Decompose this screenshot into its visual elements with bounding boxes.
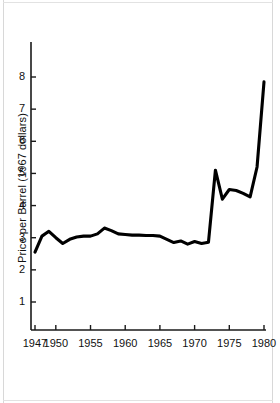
- figure-page: Price per Barrel (1967 dollars) 12345678…: [0, 0, 280, 403]
- y-axis-label: Price per Barrel (1967 dollars): [16, 88, 28, 288]
- axis-ticks: [31, 77, 264, 330]
- y-tick-label: 3: [5, 231, 25, 243]
- y-tick-label: 5: [5, 166, 25, 178]
- x-tick-label: 1980: [244, 337, 280, 349]
- y-tick-label: 4: [5, 199, 25, 211]
- data-series: [35, 82, 264, 252]
- y-tick-label: 1: [5, 295, 25, 307]
- y-tick-label: 2: [5, 263, 25, 275]
- line-chart: Price per Barrel (1967 dollars) 12345678…: [0, 0, 280, 403]
- series-line: [35, 82, 264, 252]
- y-tick-label: 6: [5, 134, 25, 146]
- y-tick-label: 7: [5, 102, 25, 114]
- y-tick-label: 8: [5, 70, 25, 82]
- axes: [31, 42, 266, 330]
